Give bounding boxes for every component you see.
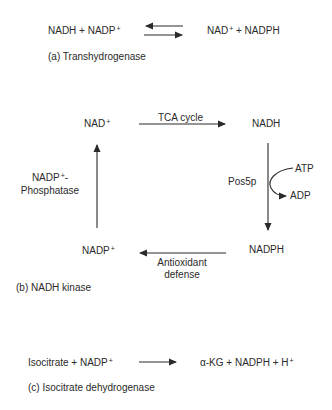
superscript: + — [229, 25, 233, 32]
node-nadph: NADPH — [249, 244, 284, 256]
cofactor-atp: ATP — [295, 163, 314, 175]
products-text-2: + NADPH — [233, 25, 279, 36]
edge-label-phosphatase-line1: NADP+- — [14, 172, 86, 184]
node-nad-plus: NAD+ — [84, 118, 110, 130]
node-nadp-plus: NADP+ — [82, 245, 115, 257]
edge-label-tca-cycle: TCA cycle — [158, 112, 203, 124]
node-label: NADP — [82, 245, 110, 256]
panel-b-caption: (b) NADH kinase — [16, 282, 91, 294]
products-text: α-KG + NADPH + H — [200, 357, 289, 368]
cofactor-adp: ADP — [290, 190, 311, 202]
node-label: NAD — [84, 118, 105, 129]
edge-label-antioxidant-line2: defense — [142, 269, 222, 281]
superscript: + — [111, 245, 115, 252]
edge-label-phosphatase-line2: Phosphatase — [14, 185, 86, 197]
panel-a-caption: (a) Transhydrogenase — [48, 51, 146, 63]
panel-a-products: NAD+ + NADPH — [207, 25, 280, 37]
label-text: NADP — [32, 172, 60, 183]
superscript: + — [290, 357, 294, 364]
reactants-text: Isocitrate + NADP — [28, 357, 108, 368]
panel-c-caption: (c) Isocitrate dehydrogenase — [28, 382, 155, 394]
reversible-arrow-icon — [144, 26, 183, 35]
reactants-text: NADH + NADP — [48, 25, 116, 36]
label-suffix: - — [65, 172, 68, 183]
superscript: + — [109, 357, 113, 364]
superscript: + — [117, 25, 121, 32]
panel-c-products: α-KG + NADPH + H+ — [200, 357, 294, 369]
edge-label-pos5p: Pos5p — [228, 176, 256, 188]
panel-a-reactants: NADH + NADP+ — [48, 25, 121, 37]
superscript: + — [106, 118, 110, 125]
edge-label-antioxidant-line1: Antioxidant — [142, 257, 222, 269]
node-nadh: NADH — [252, 118, 280, 130]
products-text: NAD — [207, 25, 228, 36]
panel-c-reactants: Isocitrate + NADP+ — [28, 357, 113, 369]
superscript: + — [61, 172, 65, 179]
